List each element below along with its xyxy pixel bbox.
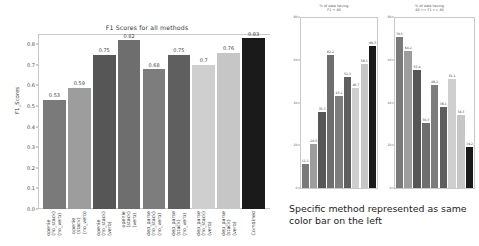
left-bar-value-label: 0.7 <box>200 57 208 63</box>
right-bar-slot: 64.2 <box>404 17 412 188</box>
left-ytick-label: 0.2 <box>27 165 35 171</box>
left-bar <box>217 53 240 209</box>
left-chart-title: F1 Scores for all methods <box>16 24 278 31</box>
right-bar-value-label: 38.1 <box>440 102 447 106</box>
middle-chart-bars: 11.120.535.762.243.252.146.758.166.3 <box>301 17 377 188</box>
left-xaxis-label-text: openie(stack)(no_verb) <box>71 211 87 234</box>
middle-bar <box>302 164 309 188</box>
left-bar-value-label: 0.75 <box>173 47 184 53</box>
right-bar-slot: 30.3 <box>422 17 430 188</box>
middle-bar <box>344 77 351 188</box>
left-bar-value-label: 0.53 <box>49 92 60 98</box>
right-bar-value-label: 19.2 <box>466 142 473 146</box>
left-xaxis-label: openie(no_stack)(no_verb) <box>43 211 66 246</box>
middle-bar-slot: 11.1 <box>302 17 309 188</box>
middle-bar-slot: 20.5 <box>310 17 317 188</box>
middle-bar-value-label: 20.5 <box>310 139 317 143</box>
left-bar-value-label: 0.68 <box>148 62 159 68</box>
figure-canvas: F1 Scores for all methods F1_Scores 0.00… <box>0 0 479 246</box>
middle-chart-yaxis: 020406080 <box>288 17 300 189</box>
right-bar-value-label: 70.5 <box>396 32 403 36</box>
left-xaxis-label-text: dep_parse(stack)(verb) <box>221 211 237 236</box>
right-chart-bars: 70.564.255.430.348.238.151.134.319.2 <box>395 17 474 188</box>
left-ytick-label: 0.3 <box>27 144 35 150</box>
right-bar <box>466 147 474 188</box>
left-xaxis-label-text: Combined <box>251 211 256 235</box>
right-bar-slot: 55.4 <box>413 17 421 188</box>
right-bar <box>422 123 430 188</box>
left-chart-bars: 0.530.590.750.820.680.750.70.760.83 <box>39 34 269 209</box>
middle-ytick-label: 40 <box>293 101 297 105</box>
left-ytick-label: 0.0 <box>27 206 35 212</box>
left-bar-slot: 0.68 <box>143 34 166 209</box>
left-bar-slot: 0.7 <box>192 34 215 209</box>
left-bar <box>192 65 215 209</box>
right-bar <box>396 37 404 188</box>
right-bar <box>404 51 412 188</box>
middle-bar-value-label: 58.1 <box>361 59 368 63</box>
left-xaxis-label-text: dep_parse(stack)(no_verb) <box>171 211 187 236</box>
middle-bar-slot: 46.7 <box>352 17 359 188</box>
right-chart-panel: % of data having 40 <= F1 <= 80 02040608… <box>382 0 477 200</box>
left-bar <box>118 40 141 209</box>
right-bar <box>457 115 465 188</box>
left-bar-value-label: 0.75 <box>99 47 110 53</box>
right-bar-slot: 48.2 <box>431 17 439 188</box>
left-xaxis-label: openie(stack)(verb) <box>118 211 141 246</box>
right-bar-slot: 51.1 <box>448 17 456 188</box>
right-bar <box>413 70 421 188</box>
left-xaxis-label-text: openie(stack)(verb) <box>121 211 137 227</box>
left-ytick-label: 0.8 <box>27 41 35 47</box>
left-xaxis-label-text: dep_parse(no_stack)(no_verb) <box>146 211 162 236</box>
left-bar-slot: 0.53 <box>43 34 66 209</box>
right-bar-value-label: 64.2 <box>405 46 412 50</box>
figure-caption: Specific method represented as same colo… <box>289 203 479 226</box>
left-bar-value-label: 0.83 <box>248 31 259 37</box>
left-bar <box>143 69 166 209</box>
middle-bar <box>369 46 376 188</box>
middle-bar <box>335 96 342 188</box>
middle-bar-value-label: 11.1 <box>302 159 309 163</box>
right-chart-title: % of data having 40 <= F1 <= 80 <box>382 4 477 13</box>
right-bar-slot: 70.5 <box>396 17 404 188</box>
middle-bar <box>352 88 359 188</box>
right-bar-value-label: 48.2 <box>431 80 438 84</box>
left-ytick-label: 0.1 <box>27 185 35 191</box>
left-chart-yaxis: 0.00.10.20.30.40.50.60.70.8 <box>16 34 38 209</box>
middle-bar <box>361 64 368 188</box>
left-bar <box>242 38 265 209</box>
left-bar-slot: 0.82 <box>118 34 141 209</box>
right-bar <box>431 85 439 188</box>
right-bar <box>448 79 456 188</box>
middle-bar <box>327 55 334 188</box>
left-bar-value-label: 0.82 <box>124 33 135 39</box>
right-ytick-label: 60 <box>387 58 391 62</box>
right-ytick-label: 40 <box>387 101 391 105</box>
left-xaxis-label: dep_parse(stack)(verb) <box>217 211 240 246</box>
middle-bar-value-label: 62.2 <box>327 50 334 54</box>
left-bar-slot: 0.75 <box>168 34 191 209</box>
left-bar-value-label: 0.59 <box>74 80 85 86</box>
left-bar-slot: 0.75 <box>93 34 116 209</box>
middle-bar-value-label: 66.3 <box>369 41 376 45</box>
left-xaxis-label-text: openie(no_stack)(verb) <box>96 211 112 236</box>
left-bar <box>168 55 191 209</box>
left-xaxis-label: dep_parse(stack)(no_verb) <box>168 211 191 246</box>
middle-bar <box>318 112 325 188</box>
left-ytick-label: 0.5 <box>27 103 35 109</box>
right-bar-slot: 38.1 <box>440 17 448 188</box>
left-ytick-label: 0.7 <box>27 62 35 68</box>
right-bar-value-label: 30.3 <box>422 118 429 122</box>
left-bar-value-label: 0.76 <box>223 45 234 51</box>
middle-bar-slot: 62.2 <box>327 17 334 188</box>
left-xaxis-label: dep_parse(no_stack)(no_verb) <box>143 211 166 246</box>
middle-bar-slot: 58.1 <box>361 17 368 188</box>
left-xaxis-label: openie(no_stack)(verb) <box>93 211 116 246</box>
left-bar <box>68 88 91 209</box>
middle-bar-value-label: 43.2 <box>336 91 343 95</box>
right-chart-yaxis: 020406080 <box>382 17 394 189</box>
middle-ytick-label: 60 <box>293 58 297 62</box>
left-xaxis-label: openie(stack)(no_verb) <box>68 211 91 246</box>
middle-chart-title: % of data having F1 < 40 <box>288 4 380 13</box>
left-bar-slot: 0.83 <box>242 34 265 209</box>
